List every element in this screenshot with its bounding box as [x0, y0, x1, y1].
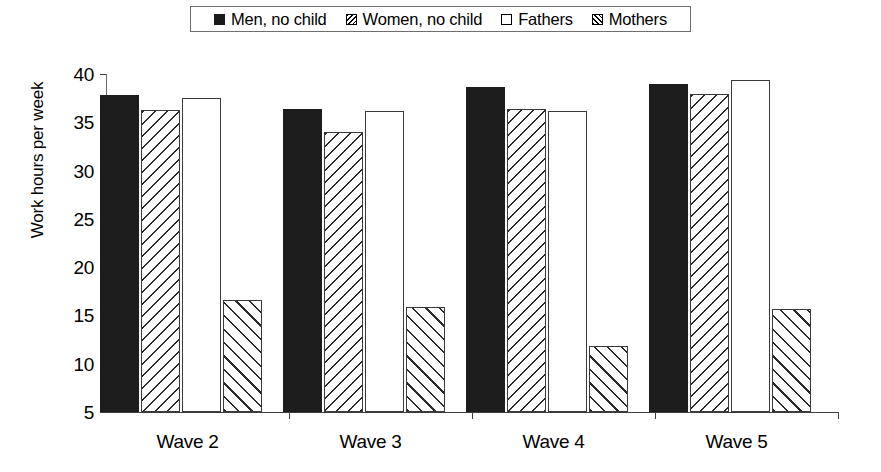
x-tick-label: Wave 5 — [706, 432, 768, 451]
bar — [589, 346, 628, 412]
x-tick-label: Wave 2 — [157, 432, 219, 451]
x-tick-label: Wave 4 — [523, 432, 585, 451]
bar — [466, 87, 505, 412]
bar — [283, 109, 322, 412]
bar — [406, 307, 445, 412]
x-tick-mark — [655, 412, 656, 419]
bars-layer — [0, 0, 881, 413]
bar — [690, 94, 729, 412]
bar — [182, 98, 221, 412]
bar — [649, 84, 688, 412]
bar — [731, 80, 770, 412]
bar — [223, 300, 262, 412]
bar — [365, 111, 404, 412]
bar — [141, 110, 180, 412]
x-tick-mark — [838, 412, 839, 419]
bar — [548, 111, 587, 412]
bar — [507, 109, 546, 412]
x-tick-mark — [472, 412, 473, 419]
x-tick-label: Wave 3 — [340, 432, 402, 451]
bar — [100, 95, 139, 412]
bar — [324, 132, 363, 412]
chart-plot-area: Work hours per week 403530252015105 Wave… — [0, 0, 881, 472]
x-tick-mark — [289, 412, 290, 419]
bar — [772, 309, 811, 412]
